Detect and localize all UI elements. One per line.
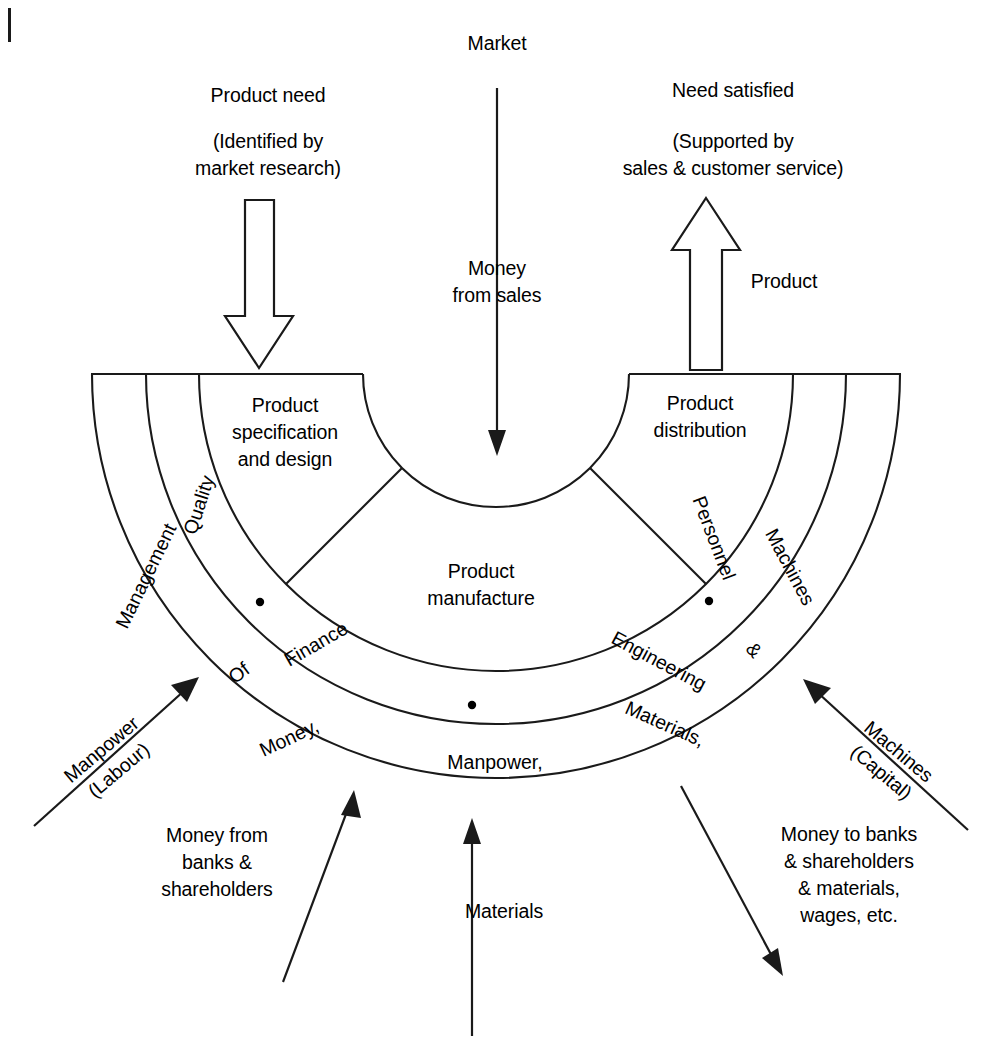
radial-divider-right: [590, 468, 706, 584]
need-satisfied-sublabel: (Supported by sales & customer service): [623, 128, 844, 182]
radial-divider-left: [286, 468, 402, 584]
product-need-sublabel: (Identified by market research): [195, 128, 341, 182]
money-to-banks-arrow-head: [762, 948, 783, 976]
separator-dot-right: [705, 597, 713, 605]
money-from-banks-label: Money from banks & shareholders: [161, 822, 273, 903]
need-satisfied-label: Need satisfied: [672, 77, 794, 104]
money-from-banks-arrow-shaft: [283, 806, 349, 982]
manpower-label[interactable]: Manpower,: [447, 751, 542, 774]
need-satisfied-hollow-arrow: [672, 198, 740, 370]
separator-dot-center: [468, 701, 476, 709]
market-label: Market: [468, 30, 527, 57]
materials-arrow-head: [463, 818, 481, 844]
money-from-sales-label: Money from sales: [453, 255, 542, 309]
separator-dot-left: [256, 598, 264, 606]
product-need-label: Product need: [211, 82, 326, 109]
product-out-label: Product: [751, 268, 818, 295]
product-distribution-label[interactable]: Product distribution: [653, 390, 746, 444]
money-from-sales-arrow-head: [488, 430, 506, 456]
materials-in-label: Materials: [465, 898, 543, 925]
product-specification-and-design-label[interactable]: Product specification and design: [232, 392, 338, 473]
product-manufacture-label: Product manufacture: [427, 558, 534, 612]
diagram-canvas: Market Product need (Identified by marke…: [0, 0, 997, 1048]
product-need-hollow-arrow: [225, 200, 293, 368]
money-from-banks-arrow-head: [341, 790, 361, 818]
money-to-banks-arrow-shaft: [681, 786, 774, 960]
money-to-banks-label: Money to banks & shareholders & material…: [781, 821, 917, 929]
